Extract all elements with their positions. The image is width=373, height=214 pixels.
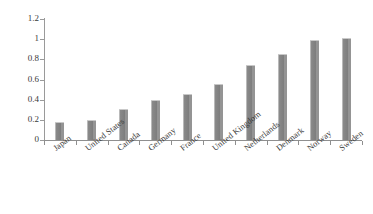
x-axis-tick xyxy=(76,141,77,145)
x-axis-tick xyxy=(203,141,204,145)
y-axis-tick-label: 0.4 xyxy=(28,95,39,104)
y-axis-tick-label: 0.2 xyxy=(28,115,39,124)
x-axis-tick xyxy=(330,141,331,145)
x-axis-tick xyxy=(235,141,236,145)
y-axis-tick-label: 1.2 xyxy=(28,14,39,23)
bar xyxy=(214,84,223,140)
x-axis-tick xyxy=(108,141,109,145)
bar xyxy=(246,65,255,140)
bar xyxy=(310,40,319,140)
x-axis-tick xyxy=(267,141,268,145)
x-axis-tick xyxy=(362,141,363,145)
y-axis-tick-label: 0 xyxy=(35,135,40,144)
y-axis-tick-label: 1 xyxy=(35,34,40,43)
x-axis-tick xyxy=(139,141,140,145)
y-axis-tick-label: 0.8 xyxy=(28,54,39,63)
bar xyxy=(183,94,192,140)
x-axis-tick xyxy=(44,141,45,145)
y-axis-tick-label: 0.6 xyxy=(28,75,39,84)
bar xyxy=(342,38,351,140)
x-axis-tick xyxy=(171,141,172,145)
x-axis-tick xyxy=(298,141,299,145)
bar-chart: 00.20.40.60.811.2 JapanUnited StatesCana… xyxy=(0,0,373,214)
plot-area xyxy=(44,19,362,140)
